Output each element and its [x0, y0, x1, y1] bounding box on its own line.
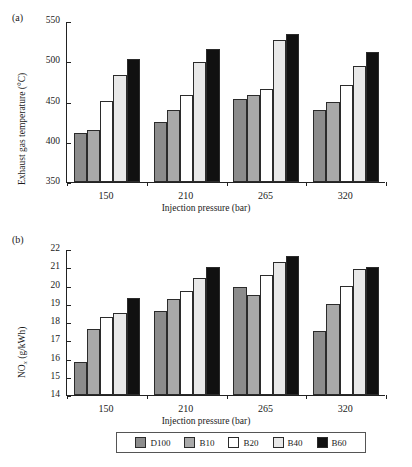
legend-item-d100: D100	[135, 437, 170, 448]
x-axis-tick-mark	[67, 395, 68, 399]
bar-b20-210	[180, 95, 193, 182]
bar-b10-150	[87, 130, 100, 182]
chart-panel-a: (a) Exhaust gas temperature (°C) 3504004…	[0, 0, 412, 225]
x-axis-tick-label: 210	[146, 190, 226, 201]
y-axis-tick-label: 22	[51, 243, 61, 253]
panel-label-b: (b)	[12, 234, 24, 245]
legend-item-b10: B10	[184, 437, 214, 448]
x-axis-tick-label: 265	[226, 190, 306, 201]
x-axis-title-b: Injection pressure (bar)	[0, 416, 412, 426]
legend-item-b40: B40	[273, 437, 303, 448]
chart-legend: D100B10B20B40B60	[116, 432, 366, 453]
bar-d100-265	[233, 287, 246, 395]
bar-b40-150	[113, 313, 126, 395]
y-axis-tick-label: 450	[46, 96, 60, 106]
bar-group	[67, 22, 147, 182]
bar-group	[227, 250, 307, 395]
bar-b60-265	[286, 34, 299, 182]
x-axis-tick-label: 320	[305, 190, 385, 201]
legend-swatch-icon	[228, 437, 239, 448]
bar-group	[306, 250, 386, 395]
y-axis-tick-label: 550	[46, 15, 60, 25]
bar-b40-320	[353, 269, 366, 395]
y-axis-tick-label: 14	[51, 389, 61, 399]
bar-b20-265	[260, 89, 273, 182]
legend-label: B20	[243, 438, 258, 448]
bar-group	[227, 22, 307, 182]
bar-d100-265	[233, 99, 246, 182]
bar-d100-150	[74, 133, 87, 182]
x-axis-tick-label: 150	[66, 190, 146, 201]
x-axis-tick-mark	[386, 182, 387, 186]
bar-b10-150	[87, 329, 100, 395]
bar-b20-320	[340, 85, 353, 182]
bar-b10-210	[167, 299, 180, 395]
bar-b10-210	[167, 110, 180, 182]
bar-b60-320	[366, 52, 379, 182]
bar-b40-320	[353, 66, 366, 182]
bar-d100-320	[313, 110, 326, 182]
bar-b20-150	[100, 101, 113, 182]
x-axis-tick-mark	[227, 182, 228, 186]
bar-b40-265	[273, 40, 286, 182]
legend-label: B60	[332, 438, 347, 448]
bar-b60-150	[127, 298, 140, 395]
x-axis-tick-mark	[306, 182, 307, 186]
x-axis-tick-mark	[386, 395, 387, 399]
bar-b20-150	[100, 317, 113, 395]
legend-swatch-icon	[135, 437, 146, 448]
y-axis-tick-label: 21	[51, 261, 61, 271]
plot-area-b: 141516171819202122	[66, 250, 385, 396]
bar-b20-210	[180, 291, 193, 395]
legend-swatch-icon	[273, 437, 284, 448]
bar-b60-320	[366, 267, 379, 395]
y-axis-tick-label: 350	[46, 176, 60, 186]
y-axis-tick-label: 18	[51, 316, 61, 326]
y-axis-tick-label: 15	[51, 371, 61, 381]
y-axis-tick-label: 400	[46, 136, 60, 146]
plot-area-a: 350400450500550	[66, 22, 385, 183]
bar-group	[147, 22, 227, 182]
bar-b20-320	[340, 286, 353, 396]
bar-d100-320	[313, 331, 326, 395]
legend-label: B10	[199, 438, 214, 448]
bar-b40-210	[193, 278, 206, 395]
bar-b60-210	[206, 49, 219, 182]
x-axis-tick-mark	[67, 182, 68, 186]
legend-item-b60: B60	[317, 437, 347, 448]
legend-item-b20: B20	[228, 437, 258, 448]
y-axis-title-b: NOx (g/kWh)	[17, 327, 29, 378]
bar-b60-265	[286, 256, 299, 395]
y-axis-tick-label: 500	[46, 55, 60, 65]
bar-b40-150	[113, 75, 126, 182]
bar-d100-210	[154, 311, 167, 395]
x-axis-title-a: Injection pressure (bar)	[0, 203, 412, 213]
legend-label: B40	[288, 438, 303, 448]
x-axis-tick-label: 320	[305, 403, 385, 414]
bar-group	[306, 22, 386, 182]
bar-d100-210	[154, 122, 167, 182]
bar-b60-150	[127, 59, 140, 182]
x-axis-tick-mark	[306, 395, 307, 399]
bar-b40-265	[273, 262, 286, 395]
x-axis-tick-mark	[227, 395, 228, 399]
bar-group	[147, 250, 227, 395]
bar-b10-265	[247, 295, 260, 395]
bar-group	[67, 250, 147, 395]
legend-swatch-icon	[317, 437, 328, 448]
bar-b10-320	[326, 102, 339, 183]
bar-b60-210	[206, 267, 219, 395]
bar-b10-265	[247, 95, 260, 182]
y-axis-tick-label: 16	[51, 353, 61, 363]
x-axis-tick-mark	[147, 395, 148, 399]
y-axis-title-a: Exhaust gas temperature (°C)	[17, 73, 27, 185]
x-axis-tick-mark	[147, 182, 148, 186]
legend-swatch-icon	[184, 437, 195, 448]
panel-label-a: (a)	[12, 12, 23, 23]
bar-b20-265	[260, 275, 273, 395]
x-axis-tick-label: 150	[66, 403, 146, 414]
bar-b40-210	[193, 62, 206, 182]
legend-label: D100	[150, 438, 170, 448]
chart-panel-b: (b) NOx (g/kWh) 141516171819202122 Injec…	[0, 228, 412, 423]
x-axis-tick-label: 265	[226, 403, 306, 414]
